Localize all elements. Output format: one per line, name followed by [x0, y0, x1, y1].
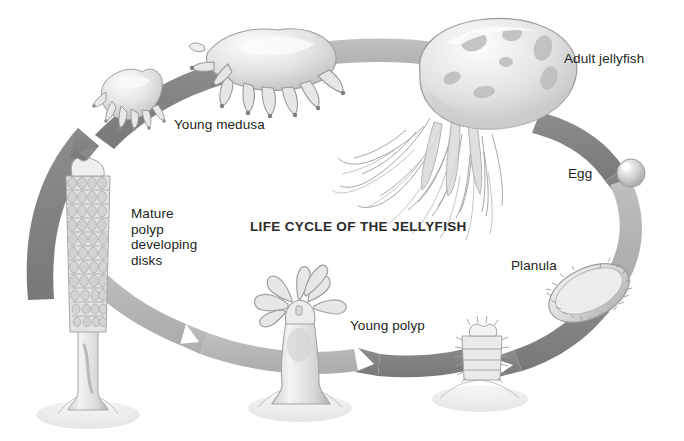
diagram-title: LIFE CYCLE OF THE JELLYFISH [250, 219, 467, 234]
organism-egg [617, 159, 645, 187]
label-planula: Planula [511, 258, 557, 274]
label-adult-jellyfish: Adult jellyfish [564, 51, 644, 67]
label-egg: Egg [568, 166, 592, 182]
label-young-medusa: Young medusa [174, 117, 265, 133]
organism-young-polyp [248, 265, 352, 422]
life-cycle-diagram: Adult jellyfish Egg Planula Young polyp … [0, 0, 684, 441]
label-mature-polyp: Mature polyp developing disks [131, 206, 197, 268]
label-young-polyp: Young polyp [350, 318, 425, 334]
